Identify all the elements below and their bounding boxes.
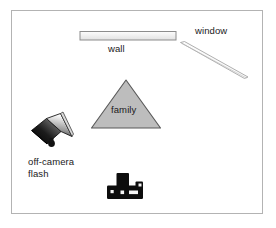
lighting-setup-diagram: window wall family off-cameraflash — [0, 0, 276, 228]
off-camera-flash-label-line2: flash — [28, 168, 49, 179]
off-camera-flash-label: off-cameraflash — [28, 156, 74, 179]
off-camera-flash-label-line1: off-camera — [28, 156, 74, 167]
wall-shape — [80, 32, 176, 41]
flash-icon — [32, 112, 74, 147]
family-label: family — [111, 104, 136, 116]
window-shape — [181, 42, 249, 79]
window-label: window — [195, 25, 227, 37]
camera-icon — [107, 173, 143, 199]
wall-label: wall — [108, 43, 125, 55]
diagram-shapes-layer — [0, 0, 276, 228]
